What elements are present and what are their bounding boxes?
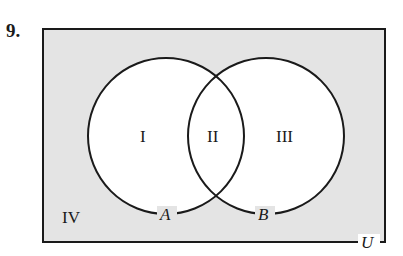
- region-label-iii: III: [276, 127, 293, 146]
- region-label-ii: II: [207, 127, 219, 146]
- set-b-label: B: [258, 205, 269, 224]
- problem-number: 9.: [6, 20, 20, 42]
- region-label-i: I: [140, 127, 146, 146]
- venn-diagram: I II III IV A B U: [0, 0, 403, 256]
- universe-label: U: [361, 233, 375, 252]
- venn-diagram-figure: 9. I II III IV A B U: [0, 0, 403, 256]
- set-a-label: A: [159, 205, 171, 224]
- region-label-iv: IV: [62, 208, 81, 227]
